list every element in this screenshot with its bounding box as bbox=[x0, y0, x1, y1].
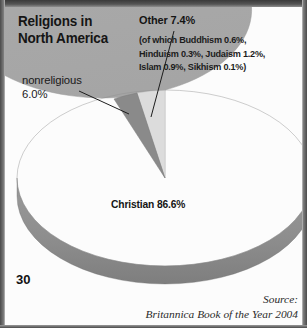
page-frame-right bbox=[302, 0, 307, 328]
source-attribution: Source: Britannica Book of the Year 2004 bbox=[146, 292, 298, 322]
chart-page: Religions in North America Other 7.4% (o… bbox=[0, 0, 307, 328]
nonreligious-label: nonreligious bbox=[22, 73, 82, 87]
other-detail-line-2: Hinduism 0.3%, Judaism 1.2%, bbox=[139, 47, 291, 61]
other-detail-line-1: (of which Buddhism 0.6%, bbox=[139, 33, 291, 47]
pie-side-wall bbox=[17, 178, 302, 284]
source-line-2: Britannica Book of the Year 2004 bbox=[146, 307, 298, 322]
title-line-1: Religions in bbox=[18, 13, 144, 30]
other-detail-line-3: Islam 0.9%, Sikhism 0.1%) bbox=[139, 60, 291, 74]
slice-label-christian: Christian 86.6% bbox=[111, 198, 185, 210]
callout-other-heading: Other 7.4% bbox=[139, 14, 195, 26]
page-title: Religions in North America bbox=[18, 13, 144, 47]
source-line-1: Source: bbox=[146, 292, 298, 307]
callout-other-detail: (of which Buddhism 0.6%, Hinduism 0.3%, … bbox=[139, 33, 291, 74]
page-frame-top bbox=[0, 0, 307, 7]
title-line-2: North America bbox=[18, 30, 144, 47]
callout-nonreligious: nonreligious 6.0% bbox=[22, 73, 82, 101]
page-number: 30 bbox=[16, 272, 30, 287]
nonreligious-value: 6.0% bbox=[22, 87, 82, 101]
